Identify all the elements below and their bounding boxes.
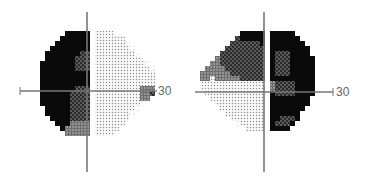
field-cell xyxy=(70,111,75,116)
field-cell xyxy=(300,96,305,101)
field-cell xyxy=(270,66,275,71)
field-cell xyxy=(240,96,245,101)
field-cell xyxy=(240,101,245,106)
field-cell xyxy=(275,121,280,126)
field-cell xyxy=(95,96,100,101)
field-cell xyxy=(245,71,250,76)
field-cell xyxy=(65,36,70,41)
field-cell xyxy=(55,106,60,111)
field-cell xyxy=(270,36,275,41)
field-cell xyxy=(60,41,65,46)
field-cell xyxy=(280,86,285,91)
field-cell xyxy=(235,76,240,81)
field-cell xyxy=(70,116,75,121)
field-cell xyxy=(230,96,235,101)
field-cell xyxy=(70,36,75,41)
field-cell xyxy=(240,56,245,61)
field-cell xyxy=(115,106,120,111)
field-cell xyxy=(140,61,145,66)
field-cell xyxy=(255,31,260,36)
field-cell xyxy=(285,111,290,116)
field-cell xyxy=(305,96,310,101)
field-cell xyxy=(285,96,290,101)
field-cell xyxy=(140,81,145,86)
field-cell xyxy=(80,36,85,41)
field-cell xyxy=(120,41,125,46)
field-cell xyxy=(105,66,110,71)
field-cell xyxy=(220,56,225,61)
field-cell xyxy=(110,96,115,101)
field-cell xyxy=(110,121,115,126)
field-cell xyxy=(295,56,300,61)
field-cell xyxy=(65,121,70,126)
field-cell xyxy=(280,76,285,81)
field-cell xyxy=(245,101,250,106)
field-cell xyxy=(305,71,310,76)
field-cell xyxy=(80,111,85,116)
field-cell xyxy=(295,96,300,101)
field-cell xyxy=(255,36,260,41)
field-cell xyxy=(50,106,55,111)
field-cell xyxy=(285,71,290,76)
field-cell xyxy=(60,36,65,41)
field-cell xyxy=(230,86,235,91)
field-cell xyxy=(130,96,135,101)
field-cell xyxy=(65,126,70,131)
field-cell xyxy=(120,46,125,51)
field-cell xyxy=(105,131,110,136)
field-cell xyxy=(275,71,280,76)
field-cell xyxy=(230,41,235,46)
field-cell xyxy=(70,71,75,76)
field-cell xyxy=(50,81,55,86)
field-cell xyxy=(80,61,85,66)
field-cell xyxy=(245,96,250,101)
field-cell xyxy=(95,61,100,66)
field-cell xyxy=(220,96,225,101)
field-cell xyxy=(245,126,250,131)
field-cell xyxy=(255,71,260,76)
field-cell xyxy=(210,81,215,86)
field-cell xyxy=(75,121,80,126)
field-cell xyxy=(220,51,225,56)
field-cell xyxy=(70,131,75,136)
field-cell xyxy=(60,101,65,106)
field-cell xyxy=(275,111,280,116)
field-cell xyxy=(100,116,105,121)
field-cell xyxy=(100,61,105,66)
field-cell xyxy=(280,96,285,101)
field-cell xyxy=(45,76,50,81)
field-cell xyxy=(95,111,100,116)
field-cell xyxy=(275,126,280,131)
field-cell xyxy=(100,46,105,51)
field-cell xyxy=(240,66,245,71)
field-cell xyxy=(215,56,220,61)
field-cell xyxy=(60,81,65,86)
field-cell xyxy=(105,106,110,111)
field-cell xyxy=(65,131,70,136)
field-cell xyxy=(310,81,315,86)
field-cell xyxy=(55,46,60,51)
field-cell xyxy=(65,66,70,71)
field-cell xyxy=(300,71,305,76)
field-cell xyxy=(245,31,250,36)
field-cell xyxy=(105,31,110,36)
field-cell xyxy=(110,61,115,66)
field-cell xyxy=(50,46,55,51)
field-cell xyxy=(75,76,80,81)
field-cell xyxy=(230,116,235,121)
field-cell xyxy=(95,106,100,111)
field-cell xyxy=(80,101,85,106)
field-cell xyxy=(210,96,215,101)
field-cell xyxy=(125,106,130,111)
field-cell xyxy=(305,86,310,91)
field-cell xyxy=(125,51,130,56)
field-cell xyxy=(100,71,105,76)
field-cell xyxy=(285,41,290,46)
field-cell xyxy=(210,66,215,71)
left-chart-axis-label-30: 30 xyxy=(158,84,171,98)
field-cell xyxy=(80,81,85,86)
field-cell xyxy=(105,101,110,106)
field-cell xyxy=(115,61,120,66)
field-cell xyxy=(235,106,240,111)
field-cell xyxy=(255,41,260,46)
